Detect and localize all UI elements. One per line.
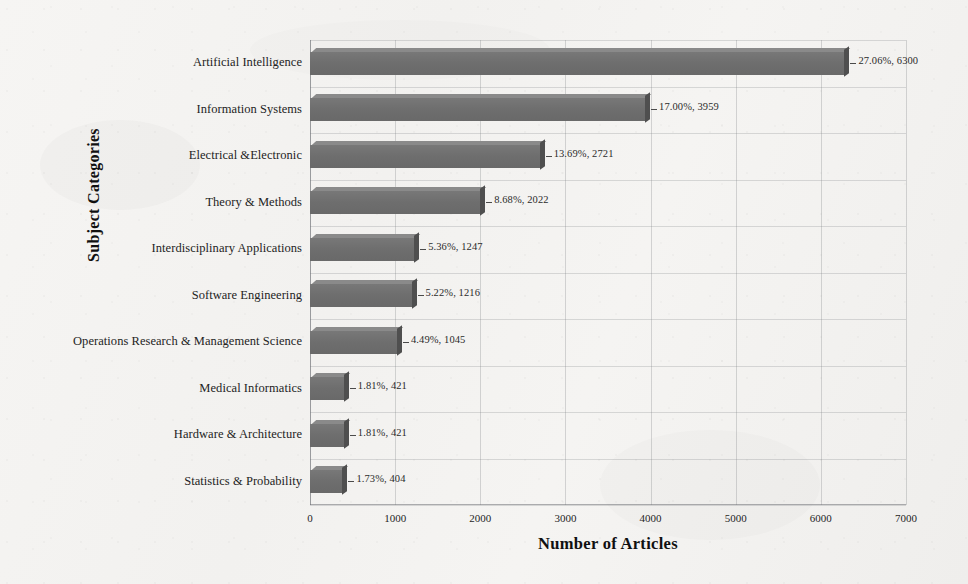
bar-row: 5.36%, 1247 xyxy=(310,238,906,261)
bar-row: 1.81%, 421 xyxy=(310,424,906,447)
category-label: Interdisciplinary Applications xyxy=(152,241,302,256)
bar-container: 1.73%, 404 xyxy=(310,470,464,493)
data-label-leader xyxy=(350,435,356,436)
bar-row: 1.81%, 421 xyxy=(310,377,906,400)
bar-container: 4.49%, 1045 xyxy=(310,331,519,354)
bar-container: 5.36%, 1247 xyxy=(310,238,536,261)
x-tick-label: 6000 xyxy=(810,512,832,524)
category-label: Operations Research & Management Science xyxy=(73,334,302,349)
x-tick-label: 2000 xyxy=(469,512,491,524)
bar[interactable] xyxy=(310,191,482,214)
bar-row: 1.73%, 404 xyxy=(310,470,906,493)
bar-data-label: 8.68%, 2022 xyxy=(494,194,548,205)
gridline-horizontal xyxy=(310,180,906,181)
bar-container: 8.68%, 2022 xyxy=(310,191,602,214)
bar-data-label: 1.73%, 404 xyxy=(356,473,405,484)
gridline-horizontal xyxy=(310,505,906,506)
x-axis-line xyxy=(310,504,906,505)
gridline-horizontal xyxy=(310,412,906,413)
category-label: Theory & Methods xyxy=(205,195,302,210)
bar-end-bevel xyxy=(844,46,849,76)
bar-end-bevel xyxy=(540,139,545,169)
bar-row: 8.68%, 2022 xyxy=(310,191,906,214)
bar-row: 17.00%, 3959 xyxy=(310,98,906,121)
bar-container: 1.81%, 421 xyxy=(310,424,466,447)
bar-end-bevel xyxy=(480,186,485,216)
bar-end-bevel xyxy=(412,279,417,309)
bar[interactable] xyxy=(310,470,344,493)
bar-data-label: 17.00%, 3959 xyxy=(659,101,719,112)
bar-end-bevel xyxy=(397,325,402,355)
bar-end-bevel xyxy=(645,93,650,123)
data-label-leader xyxy=(348,481,354,482)
data-label-leader xyxy=(418,295,424,296)
category-label: Electrical &Electronic xyxy=(189,148,302,163)
bar-end-bevel xyxy=(342,465,347,495)
x-axis-title: Number of Articles xyxy=(310,534,906,554)
bar-data-label: 27.06%, 6300 xyxy=(858,55,918,66)
category-label: Information Systems xyxy=(197,102,302,117)
x-tick-label: 7000 xyxy=(895,512,917,524)
gridline-vertical xyxy=(906,40,907,505)
bar-row: 27.06%, 6300 xyxy=(310,52,906,75)
bar-container: 1.81%, 421 xyxy=(310,377,466,400)
bar-data-label: 5.22%, 1216 xyxy=(426,287,480,298)
bar[interactable] xyxy=(310,52,846,75)
data-label-leader xyxy=(486,202,492,203)
y-axis-title: Subject Categories xyxy=(85,95,103,295)
data-label-leader xyxy=(350,388,356,389)
bar-data-label: 1.81%, 421 xyxy=(358,427,407,438)
gridline-horizontal xyxy=(310,459,906,460)
bar-data-label: 1.81%, 421 xyxy=(358,380,407,391)
bar-container: 27.06%, 6300 xyxy=(310,52,906,75)
bar[interactable] xyxy=(310,145,542,168)
bar-container: 5.22%, 1216 xyxy=(310,284,534,307)
bar-row: 4.49%, 1045 xyxy=(310,331,906,354)
plot-area: 27.06%, 630017.00%, 395913.69%, 27218.68… xyxy=(310,40,906,505)
category-label: Software Engineering xyxy=(192,288,302,303)
bar-end-bevel xyxy=(344,418,349,448)
category-label: Statistics & Probability xyxy=(184,474,302,489)
bar[interactable] xyxy=(310,284,414,307)
x-tick-label: 5000 xyxy=(725,512,747,524)
x-tick-label: 3000 xyxy=(554,512,576,524)
x-tick-label: 0 xyxy=(307,512,313,524)
data-label-leader xyxy=(420,249,426,250)
data-label-leader xyxy=(651,109,657,110)
data-label-leader xyxy=(403,342,409,343)
bar-row: 13.69%, 2721 xyxy=(310,145,906,168)
gridline-horizontal xyxy=(310,87,906,88)
bar-end-bevel xyxy=(414,232,419,262)
bar[interactable] xyxy=(310,98,647,121)
bar-end-bevel xyxy=(344,372,349,402)
gridline-horizontal xyxy=(310,40,906,41)
gridline-horizontal xyxy=(310,319,906,320)
bar[interactable] xyxy=(310,331,399,354)
x-tick-label: 1000 xyxy=(384,512,406,524)
gridline-horizontal xyxy=(310,133,906,134)
bar-data-label: 5.36%, 1247 xyxy=(428,241,482,252)
data-label-leader xyxy=(850,63,856,64)
bar[interactable] xyxy=(310,238,416,261)
bar-container: 13.69%, 2721 xyxy=(310,145,662,168)
x-tick-label: 4000 xyxy=(640,512,662,524)
bar-data-label: 4.49%, 1045 xyxy=(411,334,465,345)
bar-container: 17.00%, 3959 xyxy=(310,98,767,121)
gridline-horizontal xyxy=(310,226,906,227)
category-label: Medical Informatics xyxy=(199,381,302,396)
gridline-horizontal xyxy=(310,273,906,274)
bar[interactable] xyxy=(310,377,346,400)
paper-texture-blot xyxy=(40,120,200,210)
gridline-horizontal xyxy=(310,366,906,367)
data-label-leader xyxy=(546,156,552,157)
category-label: Artificial Intelligence xyxy=(193,55,302,70)
bar[interactable] xyxy=(310,424,346,447)
bar-data-label: 13.69%, 2721 xyxy=(554,148,614,159)
bar-chart: Subject Categories 27.06%, 630017.00%, 3… xyxy=(0,0,968,584)
bar-row: 5.22%, 1216 xyxy=(310,284,906,307)
category-label: Hardware & Architecture xyxy=(174,427,302,442)
